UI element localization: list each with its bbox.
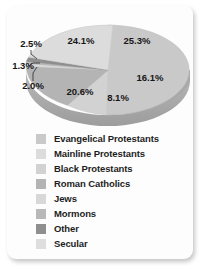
chart-legend: Evangelical Protestants Mainline Protest… bbox=[7, 131, 193, 251]
legend-label-mormons: Mormons bbox=[54, 209, 96, 219]
legend-swatch-secular bbox=[36, 239, 46, 249]
legend-swatch-other bbox=[36, 224, 46, 234]
legend-label-black-protestants: Black Protestants bbox=[54, 164, 133, 174]
legend-label-mainline-protestants: Mainline Protestants bbox=[54, 149, 145, 159]
legend-label-roman-catholics: Roman Catholics bbox=[54, 179, 130, 189]
legend-swatch-jews bbox=[36, 194, 46, 204]
chart-card: 24.1% 25.3% 16.1% 8.1% 20.6% 2.5% 1.3% 2… bbox=[7, 5, 193, 259]
slice-label-mormons: 1.3% bbox=[12, 60, 34, 71]
legend-item-roman-catholics[interactable]: Roman Catholics bbox=[7, 176, 193, 191]
legend-label-other: Other bbox=[54, 224, 79, 234]
slice-label-other: 2.5% bbox=[20, 38, 42, 49]
legend-item-black-protestants[interactable]: Black Protestants bbox=[7, 161, 193, 176]
pie-chart-svg: 24.1% 25.3% 16.1% 8.1% 20.6% 2.5% 1.3% 2… bbox=[7, 5, 193, 129]
slice-label-mainline: 16.1% bbox=[137, 72, 164, 83]
slice-label-evangelical: 25.3% bbox=[124, 35, 151, 46]
legend-item-secular[interactable]: Secular bbox=[7, 236, 193, 251]
slice-label-jews: 2.0% bbox=[22, 80, 44, 91]
legend-item-mainline-protestants[interactable]: Mainline Protestants bbox=[7, 146, 193, 161]
legend-label-evangelical-protestants: Evangelical Protestants bbox=[54, 134, 159, 144]
legend-item-other[interactable]: Other bbox=[7, 221, 193, 236]
legend-item-mormons[interactable]: Mormons bbox=[7, 206, 193, 221]
slice-label-black-protestants: 8.1% bbox=[107, 92, 129, 103]
legend-swatch-evangelical-protestants bbox=[36, 134, 46, 144]
slice-label-roman-catholics: 20.6% bbox=[67, 86, 94, 97]
pie-chart: 24.1% 25.3% 16.1% 8.1% 20.6% 2.5% 1.3% 2… bbox=[7, 5, 193, 129]
legend-swatch-roman-catholics bbox=[36, 179, 46, 189]
legend-swatch-black-protestants bbox=[36, 164, 46, 174]
legend-label-jews: Jews bbox=[54, 194, 77, 204]
legend-label-secular: Secular bbox=[54, 239, 88, 249]
slice-label-secular: 24.1% bbox=[68, 35, 95, 46]
legend-swatch-mainline-protestants bbox=[36, 149, 46, 159]
legend-item-evangelical-protestants[interactable]: Evangelical Protestants bbox=[7, 131, 193, 146]
legend-item-jews[interactable]: Jews bbox=[7, 191, 193, 206]
legend-swatch-mormons bbox=[36, 209, 46, 219]
